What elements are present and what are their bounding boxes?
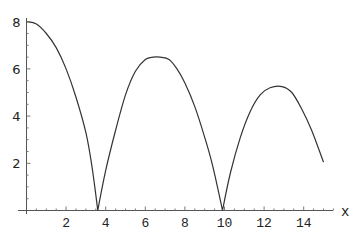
x-tick-label: 2 — [62, 216, 70, 231]
axes — [18, 18, 333, 214]
x-tick-label: 14 — [296, 216, 312, 231]
y-tick-label: 8 — [12, 15, 20, 30]
x-tick-label: 4 — [102, 216, 110, 231]
y-tick-label: 4 — [12, 109, 20, 124]
x-tick-label: 8 — [181, 216, 189, 231]
x-axis-label: x — [341, 204, 349, 220]
plot-area: 2468101214 2468 x — [0, 0, 362, 240]
y-tick-label: 2 — [12, 156, 20, 171]
x-tick-label: 10 — [217, 216, 233, 231]
x-tick-label: 12 — [256, 216, 272, 231]
data-curve — [27, 22, 324, 211]
y-tick-label: 6 — [12, 62, 20, 77]
y-axis-ticks: 2468 — [12, 15, 30, 199]
x-tick-label: 6 — [141, 216, 149, 231]
